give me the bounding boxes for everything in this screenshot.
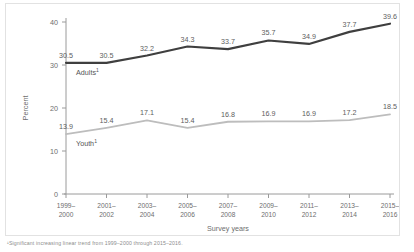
x-axis-tick-label: 2008: [221, 211, 236, 218]
x-axis-tick-label: 2005–: [178, 202, 197, 209]
data-label: 17.2: [343, 108, 357, 117]
line-chart: 010203040Percent1999–20002001–20022003–2…: [6, 4, 399, 235]
y-axis-tick-label: 20: [50, 104, 58, 113]
data-label: 37.7: [343, 20, 357, 29]
chart-footnote: ¹Significant increasing linear trend fro…: [7, 240, 183, 246]
x-axis-tick-label: 2012: [302, 211, 317, 218]
data-label: 16.8: [221, 110, 235, 119]
data-label: 34.9: [302, 32, 316, 41]
x-axis-tick-label: 2014: [342, 211, 357, 218]
x-axis-tick-label: 2001–: [97, 202, 116, 209]
data-label: 18.5: [383, 102, 397, 111]
data-label: 34.3: [181, 35, 195, 44]
y-axis-tick-label: 0: [54, 190, 58, 199]
data-label: 30.5: [100, 51, 114, 60]
x-axis-tick-label: 1999–: [57, 202, 76, 209]
x-axis-tick-label: 2003–: [138, 202, 157, 209]
y-axis-tick-label: 40: [50, 18, 58, 27]
data-label: 32.2: [140, 44, 154, 53]
series-label-youth: Youth1: [76, 138, 97, 148]
figure-frame: 010203040Percent1999–20002001–20022003–2…: [5, 3, 400, 236]
data-label: 39.6: [383, 12, 397, 21]
x-axis-tick-label: 2004: [140, 211, 155, 218]
data-label: 17.1: [140, 108, 154, 117]
data-label: 30.5: [59, 51, 73, 60]
data-label: 15.4: [100, 116, 114, 125]
data-label: 33.7: [221, 37, 235, 46]
data-label: 13.9: [59, 122, 73, 131]
x-axis-tick-label: 2009–: [259, 202, 278, 209]
x-axis-title: Survey years: [207, 224, 249, 233]
y-axis-tick-label: 30: [50, 61, 58, 70]
data-label: 35.7: [262, 28, 276, 37]
series-label-adults: Adults1: [76, 67, 99, 77]
x-axis-tick-label: 2013–: [340, 202, 359, 209]
y-axis-title: Percent: [21, 96, 30, 121]
x-axis-tick-label: 2006: [180, 211, 195, 218]
x-axis-tick-label: 2007–: [219, 202, 238, 209]
data-label: 15.4: [181, 116, 195, 125]
y-axis-tick-label: 10: [50, 147, 58, 156]
x-axis-tick-label: 2010: [261, 211, 276, 218]
data-label: 16.9: [302, 109, 316, 118]
x-axis-tick-label: 2002: [99, 211, 114, 218]
data-label: 16.9: [262, 109, 276, 118]
x-axis-tick-label: 2016: [383, 211, 398, 218]
x-axis-tick-label: 2015–: [381, 202, 399, 209]
x-axis-tick-label: 2000: [59, 211, 74, 218]
x-axis-tick-label: 2011–: [300, 202, 318, 209]
